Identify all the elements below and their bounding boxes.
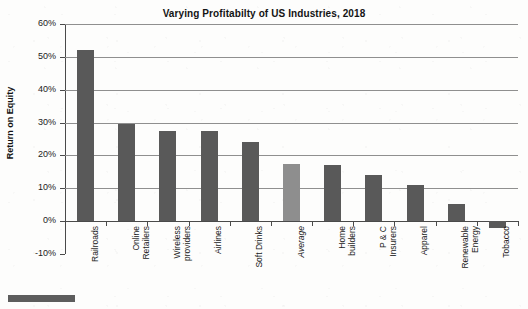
y-tick-label: 20% (0, 149, 56, 159)
y-tick-label: 30% (0, 117, 56, 127)
page-footer-mark (8, 295, 75, 302)
y-tick-label: 0% (0, 215, 56, 225)
bar-apparel (407, 185, 424, 221)
y-tick-label: -10% (0, 248, 56, 258)
x-axis-category-labels: RailroadsOnline RetailersWireless provid… (65, 226, 518, 309)
plot-area (65, 24, 518, 254)
chart-title: Varying Profitabilty of US Industries, 2… (0, 8, 528, 19)
bar-airlines (201, 131, 218, 221)
x-label-home-builders: Home builders (338, 226, 357, 306)
bar-average (283, 164, 300, 222)
x-label-p-c-insurers: P & C Insurers (379, 226, 398, 306)
x-tick-mark (518, 221, 519, 226)
bar-wireless-providers (159, 131, 176, 221)
bar-soft-drinks (242, 142, 259, 221)
x-label-soft-drinks: Soft Drinks (255, 226, 265, 306)
x-label-airlines: Airlines (214, 226, 224, 306)
bar-railroads (77, 50, 94, 221)
y-tick-label: 40% (0, 84, 56, 94)
x-label-online-retailers: Online Retailers (132, 226, 151, 306)
y-tick-label: 60% (0, 18, 56, 28)
x-label-wireless-providers: Wireless providers (173, 226, 192, 306)
x-label-renewable-energy: Renewable Energy (461, 226, 480, 306)
bar-online-retailers (118, 124, 135, 222)
scanned-page: Varying Profitabilty of US Industries, 2… (0, 0, 528, 309)
x-label-apparel: Apparel (420, 226, 430, 306)
x-label-railroads: Railroads (91, 226, 101, 306)
y-tick-label: 10% (0, 182, 56, 192)
y-tick-label: 50% (0, 51, 56, 61)
bar-renewable-energy (448, 204, 465, 221)
x-label-tobacco: Tobacco (502, 226, 512, 306)
bar-series (65, 24, 518, 254)
bar-home-builders (324, 165, 341, 221)
bar-p-c-insurers (365, 175, 382, 221)
x-label-average: Average (297, 226, 307, 306)
